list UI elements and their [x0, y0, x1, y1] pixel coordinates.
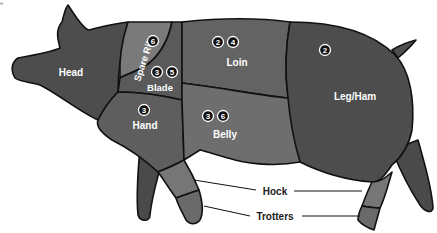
badge-hand-3: 3: [139, 105, 150, 116]
label-leg-ham: Leg/Ham: [334, 91, 376, 102]
tail: [392, 40, 416, 58]
badge-blade-5: 5: [167, 67, 178, 78]
badge-belly-3: 3: [203, 111, 214, 122]
callout-hock: Hock: [263, 186, 288, 197]
label-blade: Blade: [147, 82, 173, 93]
cut-leg-ham[interactable]: [286, 22, 413, 182]
rear-trotter[interactable]: [358, 206, 380, 230]
svg-text:2: 2: [216, 38, 221, 47]
svg-text:6: 6: [221, 112, 226, 121]
badge-blade-3: 3: [152, 67, 163, 78]
callout-trotters: Trotters: [256, 211, 294, 222]
badge-loin-2: 2: [213, 37, 224, 48]
trotters-leader-line: [204, 206, 250, 216]
svg-text:6: 6: [151, 37, 156, 46]
label-hand: Hand: [133, 120, 158, 131]
svg-text:4: 4: [231, 38, 236, 47]
label-loin: Loin: [226, 57, 247, 68]
badge-spare-rib-6: 6: [148, 36, 159, 47]
svg-text:3: 3: [142, 106, 147, 115]
badge-belly-6: 6: [218, 111, 229, 122]
label-head: Head: [59, 67, 83, 78]
svg-text:2: 2: [323, 46, 328, 55]
svg-text:3: 3: [206, 112, 211, 121]
pig-diagram: Head Spare Rib Blade Loin Leg/Ham Hand B…: [0, 0, 437, 233]
svg-text:3: 3: [155, 68, 160, 77]
svg-text:5: 5: [170, 68, 175, 77]
badge-leg-ham-2: 2: [320, 45, 331, 56]
hock-leader-line: [194, 180, 256, 190]
label-belly: Belly: [213, 129, 237, 140]
badge-loin-4: 4: [228, 37, 239, 48]
